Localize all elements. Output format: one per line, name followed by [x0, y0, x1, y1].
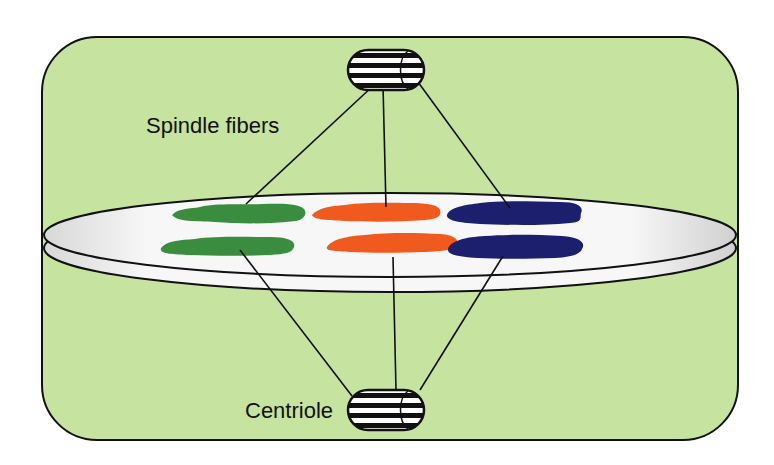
chromosome-blue-bottom — [448, 235, 583, 259]
centriole-top — [348, 50, 424, 90]
label-centriole: Centriole — [245, 398, 333, 423]
label-spindle-fibers: Spindle fibers — [146, 113, 279, 138]
centriole-bottom — [348, 390, 424, 430]
chromosome-row-top — [172, 201, 582, 225]
metaphase-diagram: Spindle fibers Centriole — [0, 0, 774, 465]
